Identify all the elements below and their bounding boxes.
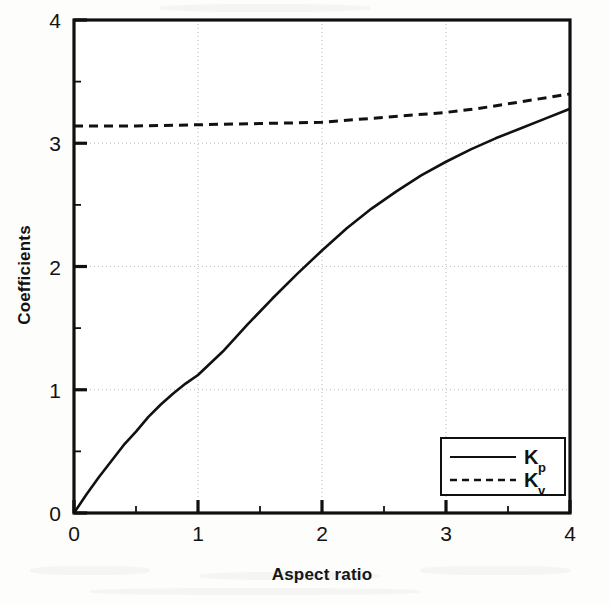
coefficients-vs-aspect-ratio-chart: 0123401234 Aspect ratio Coefficients K p… xyxy=(0,0,610,604)
y-tick-label: 3 xyxy=(49,132,61,155)
y-tick-label: 2 xyxy=(49,256,61,279)
y-tick-label: 4 xyxy=(49,9,61,32)
legend-label-kp-subscript: p xyxy=(538,460,546,475)
y-tick-label: 0 xyxy=(49,502,61,525)
x-tick-label: 4 xyxy=(564,522,576,545)
legend-label-kv-subscript: v xyxy=(538,483,546,498)
x-axis-title: Aspect ratio xyxy=(272,565,373,584)
legend[interactable]: K p K v xyxy=(441,438,565,498)
x-tick-label: 1 xyxy=(192,522,204,545)
x-tick-label: 0 xyxy=(68,522,80,545)
y-axis-title: Coefficients xyxy=(15,225,34,325)
x-tick-label: 2 xyxy=(316,522,328,545)
figure-container: 0123401234 Aspect ratio Coefficients K p… xyxy=(0,0,610,604)
legend-label-kv-base: K xyxy=(524,469,539,491)
legend-label-kp-base: K xyxy=(524,446,539,468)
legend-box xyxy=(441,438,565,495)
y-tick-label: 1 xyxy=(49,379,61,402)
x-tick-label: 3 xyxy=(440,522,452,545)
